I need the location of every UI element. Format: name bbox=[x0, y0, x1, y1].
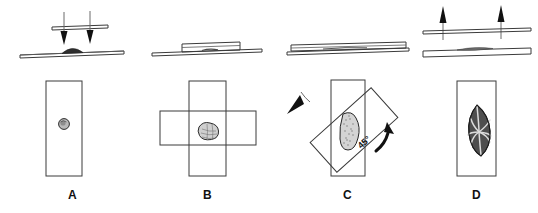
panel-c-side-view bbox=[275, 0, 420, 72]
panel-label-a: A bbox=[0, 188, 145, 202]
panel-a-top-view bbox=[0, 72, 145, 187]
squash-technique-figure: A bbox=[0, 0, 538, 213]
panel-label-b: B bbox=[140, 188, 275, 202]
panel-a-side-view bbox=[0, 0, 145, 72]
panel-c: 45° C bbox=[275, 0, 420, 213]
leaf-shaped-spread-specimen bbox=[468, 105, 491, 156]
lift-up-arrow-stems bbox=[443, 11, 501, 40]
lift-up-arrow-icon bbox=[440, 5, 505, 23]
domed-specimen bbox=[62, 48, 83, 53]
panel-c-top-view: 45° bbox=[275, 72, 420, 187]
panel-b-side-view bbox=[140, 0, 275, 72]
round-specimen bbox=[59, 119, 70, 130]
panel-label-d: D bbox=[415, 188, 538, 202]
spread-specimen bbox=[457, 48, 493, 51]
panel-b: B bbox=[140, 0, 275, 213]
coverslip-edge-view bbox=[291, 42, 406, 51]
panel-d: D bbox=[415, 0, 538, 213]
panel-b-top-view bbox=[140, 72, 275, 187]
flattened-irregular-specimen bbox=[198, 123, 218, 140]
coverslip-edge-view bbox=[182, 42, 240, 52]
coverslip-edge-view bbox=[52, 25, 108, 30]
panel-label-c: C bbox=[275, 188, 420, 202]
microscope-slide-edge-view bbox=[152, 49, 262, 56]
rotation-arrow-right bbox=[376, 122, 394, 151]
panel-d-top-view bbox=[415, 72, 538, 187]
panel-a: A bbox=[0, 0, 145, 213]
rotation-arrow-left bbox=[287, 92, 310, 114]
panel-d-side-view bbox=[415, 0, 538, 72]
coverslip-edge-view bbox=[423, 28, 531, 34]
press-down-arrow-icon bbox=[61, 30, 94, 45]
